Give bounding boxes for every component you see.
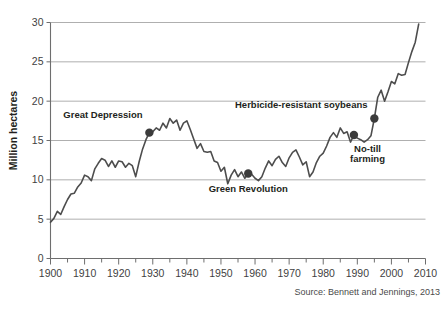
annotation-marker-green-revolution: [244, 169, 252, 177]
y-tick-label: 15: [32, 134, 44, 146]
annotation-label-great-depression: Great Depression: [63, 109, 142, 120]
annotation-label-green-revolution: Green Revolution: [209, 183, 288, 194]
x-tick-label: 1920: [107, 267, 131, 279]
y-tick-label: 5: [38, 213, 44, 225]
y-tick-label: 20: [32, 95, 44, 107]
x-tick-label: 1940: [175, 267, 199, 279]
y-axis-title: Million hectares: [7, 91, 19, 171]
x-tick-label: 1930: [141, 267, 165, 279]
y-tick-label: 10: [32, 173, 44, 185]
x-tick-label: 2000: [380, 267, 404, 279]
x-tick-label: 1990: [346, 267, 370, 279]
source-note: Source: Bennett and Jennings, 2013: [294, 287, 440, 297]
y-tick-label: 30: [32, 16, 44, 28]
y-tick-label: 25: [32, 55, 44, 67]
chart-figure: 051015202530 190019101920193019401950196…: [0, 0, 447, 309]
y-tick-label: 0: [38, 252, 44, 264]
x-tick-label: 1900: [39, 267, 63, 279]
line-chart: 051015202530 190019101920193019401950196…: [0, 0, 447, 309]
x-tick-label: 1960: [243, 267, 267, 279]
x-tick-label: 2010: [414, 267, 438, 279]
x-tick-label: 1950: [209, 267, 233, 279]
annotation-marker-great-depression: [145, 128, 153, 136]
x-tick-label: 1980: [312, 267, 336, 279]
annotation-marker-no-till-farming: [350, 131, 358, 139]
annotation-marker-herbicide-resistant-soybeans: [370, 114, 378, 122]
x-tick-label: 1910: [73, 267, 97, 279]
annotation-label-no-till-farming: No-tillfarming: [350, 143, 385, 164]
annotation-label-herbicide-resistant-soybeans: Herbicide-resistant soybeans: [235, 99, 368, 110]
x-tick-label: 1970: [277, 267, 301, 279]
